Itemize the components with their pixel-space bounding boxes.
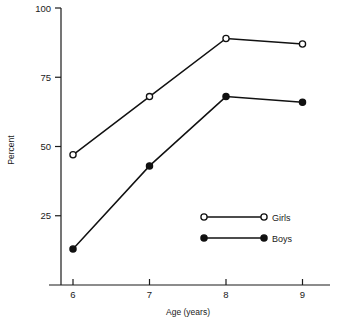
y-tick-label-25: 25 bbox=[40, 210, 51, 221]
legend-label-boys: Boys bbox=[272, 234, 293, 244]
boys-point-age-6 bbox=[70, 246, 76, 252]
series-boys bbox=[70, 94, 306, 253]
series-girls bbox=[70, 35, 306, 157]
girls-line bbox=[73, 39, 303, 155]
x-tick-label-9: 9 bbox=[300, 289, 305, 300]
y-axis-title: Percent bbox=[6, 135, 16, 165]
girls-point-age-8 bbox=[223, 35, 229, 41]
girls-point-age-7 bbox=[146, 94, 152, 100]
boys-point-age-7 bbox=[146, 163, 152, 169]
girls-point-age-9 bbox=[299, 41, 305, 47]
boys-point-age-8 bbox=[223, 94, 229, 100]
boys-point-age-9 bbox=[299, 99, 305, 105]
line-chart: 100 75 50 25 6 7 8 9 Age (years) Percent bbox=[0, 0, 337, 321]
legend-item-boys: Boys bbox=[201, 234, 293, 244]
legend-boys-marker-left bbox=[201, 235, 207, 241]
x-tick-label-7: 7 bbox=[147, 289, 152, 300]
x-tick-label-8: 8 bbox=[223, 289, 228, 300]
x-tick-label-6: 6 bbox=[70, 289, 75, 300]
x-axis-ticks bbox=[73, 279, 303, 285]
y-tick-label-100: 100 bbox=[35, 3, 51, 14]
legend-girls-marker-right bbox=[261, 214, 267, 220]
chart-legend: Girls Boys bbox=[201, 213, 293, 244]
y-tick-label-75: 75 bbox=[40, 72, 51, 83]
legend-label-girls: Girls bbox=[272, 213, 291, 223]
boys-line bbox=[73, 97, 303, 249]
chart-canvas: 100 75 50 25 6 7 8 9 Age (years) Percent bbox=[0, 0, 337, 321]
y-tick-label-50: 50 bbox=[40, 141, 51, 152]
legend-item-girls: Girls bbox=[201, 213, 291, 223]
girls-point-age-6 bbox=[70, 152, 76, 158]
y-axis-ticks bbox=[55, 8, 61, 216]
x-axis-title: Age (years) bbox=[166, 307, 210, 317]
legend-girls-marker-left bbox=[201, 214, 207, 220]
legend-boys-marker-right bbox=[261, 235, 267, 241]
